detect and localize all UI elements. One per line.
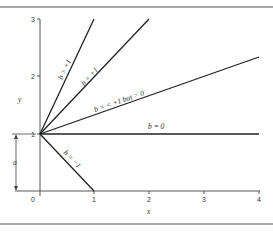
y-tick-2: 2 [31,73,35,80]
diagram-canvas: 3 2 1 0 1 2 3 4 x y a b > +1 b = +1 b = … [0,0,273,231]
x-tick-1: 1 [92,196,96,203]
y-tick-1: 1 [31,131,35,138]
x-axis-label: x [146,207,151,216]
label-b-equals-minus-1: b = −1 [62,148,83,170]
y-axis [37,19,40,196]
label-b-between-0-and-1: b = < +1 but > 0 [93,88,146,114]
x-axis [15,191,260,194]
linear-function-diagram: 3 2 1 0 1 2 3 4 x y a b > +1 b = +1 b = … [0,0,273,231]
intercept-label: a [13,158,17,167]
line-b-equals-minus-1 [40,134,94,191]
x-tick-3: 3 [202,196,206,203]
label-b-equals-1: b = +1 [79,66,100,88]
y-axis-label: y [17,95,22,104]
x-tick-4: 4 [257,196,261,203]
x-tick-2: 2 [147,196,151,203]
x-tick-0: 0 [31,196,35,203]
y-tick-3: 3 [31,16,35,23]
label-b-equals-0: b = 0 [148,122,165,131]
